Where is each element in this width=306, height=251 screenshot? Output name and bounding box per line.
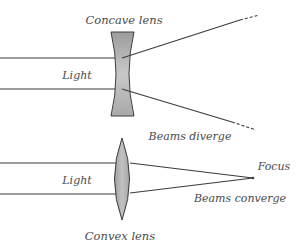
light-label-bottom: Light <box>61 174 92 187</box>
beams-diverge-label: Beams diverge <box>148 130 232 143</box>
converging-ray-top <box>130 163 253 178</box>
beams-converge-label: Beams converge <box>193 192 287 205</box>
concave-section: Concave lens Light Beams diverge <box>0 13 259 143</box>
convex-lens <box>115 138 130 220</box>
lens-diagram: Concave lens Light Beams diverge Light F… <box>0 0 306 251</box>
diverging-ray-bottom-extension <box>232 122 256 130</box>
diverging-ray-bottom <box>122 89 232 122</box>
convex-lens-label: Convex lens <box>85 229 155 243</box>
focal-point <box>252 177 255 180</box>
diverging-ray-top-extension <box>240 15 259 20</box>
converging-ray-bottom <box>130 178 253 193</box>
concave-lens-label: Concave lens <box>85 13 162 27</box>
convex-section: Light Focus Beams converge Convex lens <box>0 138 291 243</box>
focus-label: Focus <box>257 160 291 173</box>
concave-lens <box>111 32 134 116</box>
light-label-top: Light <box>61 69 92 82</box>
